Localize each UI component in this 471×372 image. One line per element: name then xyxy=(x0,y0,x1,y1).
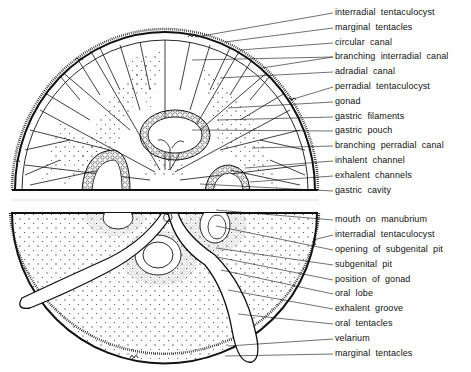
label-gonad: gonad xyxy=(335,96,361,106)
label-interradial-tentaculocyst: interradial tentaculocyst xyxy=(335,7,435,17)
label-mouth-on-manubrium: mouth on manubrium xyxy=(335,214,427,224)
label-adradial-canal: adradial canal xyxy=(335,66,395,76)
label-branching-perradial-canal: branching perradial canal xyxy=(335,140,444,150)
lower-half-oral-view xyxy=(10,197,319,372)
label-position-of-gonad: position of gonad xyxy=(335,274,410,284)
label-gastric-cavity: gastric cavity xyxy=(335,185,391,195)
label-branching-interradial-canal: branching interradial canal xyxy=(335,51,448,61)
leader-line xyxy=(225,28,333,42)
label-gastric-pouch: gastric pouch xyxy=(335,125,392,135)
label-velarium: velarium xyxy=(335,333,370,343)
leader-line xyxy=(240,43,333,50)
label-exhalent-groove: exhalent groove xyxy=(335,303,403,313)
label-marginal-tentacles: marginal tentacles xyxy=(335,348,412,358)
label-opening-of-subgenital-pit: opening of subgenital pit xyxy=(335,244,443,254)
label-oral-tentacles: oral tentacles xyxy=(335,318,393,328)
leader-line xyxy=(290,87,333,100)
label-inhalent-channel: inhalent channel xyxy=(335,155,405,165)
leader-line xyxy=(196,13,333,37)
label-marginal-tentacles: marginal tentacles xyxy=(335,22,412,32)
label-circular-canal: circular canal xyxy=(335,37,392,47)
leader-line xyxy=(262,57,333,68)
label-exhalent-channels: exhalent channels xyxy=(335,170,412,180)
label-oral-lobe: oral lobe xyxy=(335,288,373,298)
label-subgenital-pit: subgenital pit xyxy=(335,259,392,269)
label-interradial-tentaculocyst: interradial tentaculocyst xyxy=(335,229,435,239)
label-perradial-tentaculocyst: perradial tentaculocyst xyxy=(335,81,430,91)
label-gastric-filaments: gastric filaments xyxy=(335,111,404,121)
